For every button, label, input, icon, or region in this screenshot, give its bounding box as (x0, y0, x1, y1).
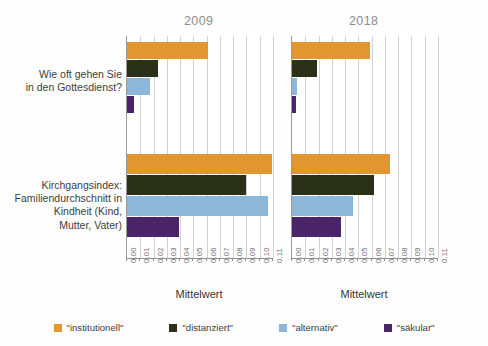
tick-mark (357, 258, 358, 261)
panel-title-2009: 2009 (184, 14, 213, 28)
category-label-gottesdienst: Wie oft gehen Sie in den Gottesdienst? (10, 68, 122, 94)
tick-mark (318, 258, 319, 261)
tick-mark (126, 258, 127, 261)
tick-mark (192, 258, 193, 261)
gridline (345, 36, 346, 258)
legend-item[interactable]: "institutionell" (54, 322, 124, 333)
tick-mark (153, 258, 154, 261)
legend-item[interactable]: "alternativ" (279, 322, 338, 333)
tick-mark (259, 258, 260, 261)
tick-mark (331, 258, 332, 261)
x-tick-label: 0.00 (129, 247, 138, 263)
x-tick-label: 0.06 (209, 247, 218, 263)
gridline (358, 36, 359, 258)
bar (127, 217, 179, 237)
tick-mark (206, 258, 207, 261)
x-tick-label: 0.01 (307, 247, 316, 263)
tick-mark (272, 258, 273, 261)
legend-swatch-icon (384, 324, 392, 332)
gridline (372, 36, 373, 258)
gridline (220, 36, 221, 258)
gridline (411, 36, 412, 258)
gridline (398, 36, 399, 258)
plot-area-2018 (291, 36, 437, 258)
x-tick-label: 0.11 (440, 248, 449, 263)
bar (292, 175, 374, 195)
legend-label: "distanziert" (182, 322, 233, 333)
x-tick-label: 0.08 (235, 247, 244, 263)
category-label-kirchgangsindex: Kirchgangsindex: Familiendurchschnitt in… (10, 179, 122, 232)
x-tick-label: 0.04 (182, 247, 191, 263)
x-tick-label: 0.01 (142, 247, 151, 263)
tick-mark (245, 258, 246, 261)
bar (127, 60, 158, 77)
chart-figure: 2009 2018 Wie oft gehen Sie in den Gotte… (0, 0, 488, 346)
bar (127, 175, 246, 195)
bar (292, 96, 296, 113)
bar (292, 154, 390, 174)
x-axis-title-2009: Mittelwert (126, 288, 272, 300)
gridline (180, 36, 181, 258)
tick-mark (291, 258, 292, 261)
legend-swatch-icon (169, 324, 177, 332)
bar (292, 217, 341, 237)
gridline (246, 36, 247, 258)
tick-mark (179, 258, 180, 261)
bar (292, 60, 317, 77)
tick-mark (344, 258, 345, 261)
bar (127, 196, 268, 216)
x-tick-label: 0.10 (262, 247, 271, 263)
tick-mark (371, 258, 372, 261)
legend-swatch-icon (54, 324, 62, 332)
x-tick-label: 0.09 (248, 247, 257, 263)
tick-mark (232, 258, 233, 261)
bar (292, 42, 370, 59)
bar (127, 78, 150, 95)
x-tick-label: 0.00 (294, 247, 303, 263)
x-tick-label: 0.04 (347, 247, 356, 263)
x-tick-label: 0.03 (334, 247, 343, 263)
gridline (273, 36, 274, 258)
tick-mark (304, 258, 305, 261)
tick-mark (437, 258, 438, 261)
legend-item[interactable]: "distanziert" (169, 322, 233, 333)
tick-mark (424, 258, 425, 261)
legend-label: "institutionell" (67, 322, 124, 333)
x-tick-label: 0.09 (413, 247, 422, 263)
legend-item[interactable]: "säkular" (384, 322, 435, 333)
tick-mark (139, 258, 140, 261)
plot-area-2009 (126, 36, 272, 258)
gridline (193, 36, 194, 258)
legend-label: "säkular" (397, 322, 435, 333)
bar (292, 196, 353, 216)
tick-mark (384, 258, 385, 261)
gridline (233, 36, 234, 258)
x-tick-label: 0.02 (156, 247, 165, 263)
x-tick-label: 0.07 (387, 247, 396, 263)
bar (292, 78, 297, 95)
bar (127, 154, 272, 174)
x-tick-label: 0.05 (360, 247, 369, 263)
x-tick-label: 0.05 (195, 247, 204, 263)
gridline (260, 36, 261, 258)
x-tick-label: 0.03 (169, 247, 178, 263)
x-tick-label: 0.11 (275, 248, 284, 263)
panel-title-2018: 2018 (349, 14, 378, 28)
bar (127, 42, 208, 59)
x-tick-label: 0.07 (222, 247, 231, 263)
gridline (207, 36, 208, 258)
x-tick-label: 0.08 (400, 247, 409, 263)
gridline (385, 36, 386, 258)
tick-mark (166, 258, 167, 261)
x-tick-label: 0.06 (374, 247, 383, 263)
legend-label: "alternativ" (292, 322, 338, 333)
bar (127, 96, 134, 113)
tick-mark (410, 258, 411, 261)
tick-mark (397, 258, 398, 261)
tick-mark (219, 258, 220, 261)
x-tick-label: 0.10 (427, 247, 436, 263)
gridline (425, 36, 426, 258)
legend-swatch-icon (279, 324, 287, 332)
chart-legend: "institutionell""distanziert""alternativ… (0, 322, 488, 333)
x-axis-title-2018: Mittelwert (291, 288, 437, 300)
